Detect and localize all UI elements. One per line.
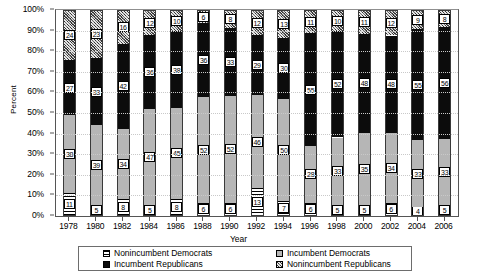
- x-axis-tick-label: 1990: [220, 221, 238, 231]
- y-axis-tick-label: 80%: [27, 45, 44, 55]
- bar-segment: 6: [198, 11, 209, 23]
- bar-segment: 10: [171, 11, 182, 31]
- bar-value-label: 52: [332, 79, 343, 89]
- bar-value-label: 48: [386, 79, 397, 89]
- bar-segment: 9: [412, 11, 423, 29]
- bar-value-label: 42: [118, 81, 129, 91]
- bar-value-label: 5: [359, 205, 370, 215]
- bar-value-label: 35: [359, 164, 370, 174]
- bar-segment: 10: [332, 11, 343, 31]
- bar-value-label: 55: [412, 80, 423, 90]
- bar-value-label: 12: [252, 18, 263, 28]
- y-axis-tick-label: 0%: [32, 210, 44, 220]
- bar-value-label: 8: [439, 14, 450, 24]
- y-axis-tick-label: 90%: [27, 25, 44, 35]
- bar-segment: 8: [118, 199, 129, 215]
- x-axis-tick-label: 1994: [274, 221, 292, 231]
- legend-swatch-nonincumbent-democrats: [103, 250, 110, 257]
- legend-label-nonincumbent-democrats: Nonincumbent Democrats: [114, 249, 212, 258]
- bar-value-label: 8: [118, 202, 129, 212]
- bar-segment: 36: [198, 23, 209, 96]
- bar-segment: 6: [386, 203, 397, 215]
- y-axis-tick: [50, 132, 54, 133]
- bar-value-label: 5: [332, 205, 343, 215]
- legend-row-2: Incumbent Republicans Nonincumbent Repub…: [79, 259, 411, 270]
- gridline: [56, 195, 458, 196]
- bar-value-label: 13: [252, 197, 263, 207]
- y-axis-tick: [50, 91, 54, 92]
- bar-segment: 4: [412, 207, 423, 215]
- bar-segment: 5: [91, 205, 102, 215]
- bar-value-label: 34: [386, 163, 397, 173]
- bar-segment: 56: [439, 27, 450, 139]
- y-axis-tick: [50, 50, 54, 51]
- y-axis-tick-label: 50%: [27, 107, 44, 117]
- bar-value-label: 39: [91, 160, 102, 170]
- chart-legend: Nonincumbent Democrats Incumbent Democra…: [78, 246, 412, 271]
- bar-value-label: 6: [386, 204, 397, 214]
- bar-segment: 33: [412, 140, 423, 207]
- legend-label-incumbent-republicans: Incumbent Republicans: [114, 260, 203, 269]
- bar-segment: 8: [171, 199, 182, 215]
- bar-value-label: 12: [144, 18, 155, 28]
- chart-root: Percent 0%10%20%30%40%50%60%70%80%90%100…: [0, 0, 477, 274]
- bar-segment: 5: [144, 205, 155, 215]
- bar-value-label: 8: [171, 202, 182, 212]
- bar-segment: 16: [118, 11, 129, 44]
- legend-label-incumbent-democrats: Incumbent Democrats: [287, 249, 370, 258]
- bar-value-label: 6: [198, 12, 209, 22]
- bar-segment: 39: [91, 125, 102, 205]
- bar-segment: 34: [386, 133, 397, 202]
- bar-segment: 12: [386, 11, 397, 35]
- bar-segment: 6: [225, 203, 236, 215]
- x-axis-tick-label: 2004: [408, 221, 426, 231]
- legend-item-incumbent-democrats: Incumbent Democrats: [266, 248, 411, 259]
- bar-value-label: 12: [386, 18, 397, 28]
- legend-item-incumbent-republicans: Incumbent Republicans: [79, 259, 266, 270]
- y-axis-tick: [50, 215, 54, 216]
- y-axis-tick-label: 20%: [27, 169, 44, 179]
- bar-segment: 6: [305, 203, 316, 215]
- gridline: [56, 92, 458, 93]
- y-axis-tick-label: 40%: [27, 128, 44, 138]
- bar-segment: 30: [278, 38, 289, 99]
- bar-segment: 5: [359, 205, 370, 215]
- bar-value-label: 29: [252, 60, 263, 70]
- bar-segment: 5: [332, 205, 343, 215]
- x-axis-tick-label: 1996: [301, 221, 319, 231]
- x-axis-tick-label: 1980: [86, 221, 104, 231]
- x-axis-tick-label: 1998: [327, 221, 345, 231]
- y-axis-tick-label: 70%: [27, 66, 44, 76]
- bar-segment: 6: [198, 203, 209, 215]
- bar-segment: 38: [171, 31, 182, 108]
- bar-segment: 33: [225, 28, 236, 96]
- bar-value-label: 13: [278, 19, 289, 29]
- gridline: [56, 51, 458, 52]
- bar-value-label: 6: [198, 204, 209, 214]
- bar-segment: 55: [412, 29, 423, 140]
- bar-value-label: 7: [278, 203, 289, 213]
- bar-value-label: 48: [359, 78, 370, 88]
- gridline: [56, 154, 458, 155]
- bar-value-label: 24: [64, 30, 75, 40]
- plot-area: 1138272453933238344216547361284538106523…: [55, 9, 459, 217]
- bar-segment: 24: [64, 11, 75, 60]
- gridline: [56, 72, 458, 73]
- bar-segment: 13: [278, 11, 289, 38]
- bar-value-label: 36: [198, 55, 209, 65]
- y-axis-tick: [50, 194, 54, 195]
- bar-value-label: 33: [412, 169, 423, 179]
- bar-value-label: 38: [171, 65, 182, 75]
- bar-segment: 12: [252, 11, 263, 35]
- legend-row-1: Nonincumbent Democrats Incumbent Democra…: [79, 248, 411, 259]
- x-axis-tick-label: 1984: [140, 221, 158, 231]
- bar-value-label: 52: [225, 144, 236, 154]
- bar-segment: 42: [118, 44, 129, 130]
- legend-swatch-incumbent-democrats: [276, 250, 283, 257]
- x-axis-tick-label: 2006: [435, 221, 453, 231]
- gridline: [56, 175, 458, 176]
- bar-segment: 27: [64, 60, 75, 115]
- bar-value-label: 56: [439, 78, 450, 88]
- x-axis-tick-label: 2002: [381, 221, 399, 231]
- x-axis-title: Year: [0, 234, 477, 244]
